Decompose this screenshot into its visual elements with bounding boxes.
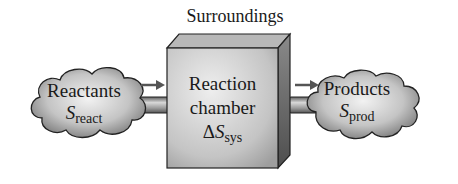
- entropy-diagram: Surroundings Reaction chamber ΔSsys Reac…: [0, 0, 458, 184]
- entropy-symbol: S: [215, 121, 225, 142]
- entropy-symbol: S: [339, 100, 349, 121]
- chamber-line2: chamber: [167, 96, 278, 120]
- chamber-side-face: [278, 34, 290, 168]
- chamber-line1: Reaction: [167, 72, 278, 96]
- reactants-title: Reactants: [24, 80, 144, 102]
- delta-s-sys: ΔSsys: [167, 120, 278, 150]
- sys-subscript: sys: [224, 130, 242, 145]
- reaction-chamber-label: Reaction chamber ΔSsys: [167, 72, 278, 150]
- entropy-symbol: S: [66, 102, 76, 123]
- reactants-label: Reactants Sreact: [24, 80, 144, 130]
- react-subscript: react: [75, 111, 102, 126]
- arrow-right-icon: [141, 80, 165, 90]
- products-label: Products Sprod: [302, 78, 412, 128]
- prod-subscript: prod: [349, 109, 375, 124]
- surroundings-label: Surroundings: [180, 7, 290, 25]
- products-title: Products: [302, 78, 412, 100]
- chamber-top-face: [167, 34, 290, 48]
- delta-symbol: Δ: [203, 121, 215, 142]
- s-react: Sreact: [24, 102, 144, 130]
- s-prod: Sprod: [302, 100, 412, 128]
